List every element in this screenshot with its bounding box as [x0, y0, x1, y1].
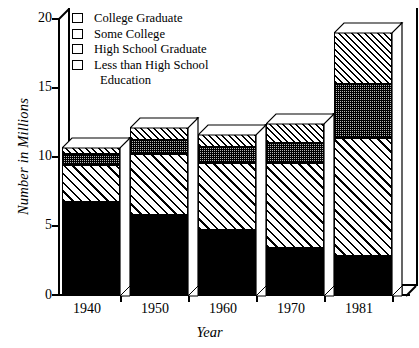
x-tick-label-1981: 1981 — [324, 301, 394, 317]
bar-1960[interactable] — [198, 134, 256, 295]
plot-frame-back-right — [416, 8, 418, 286]
bar-segment-1940-less-than-high-school-education[interactable] — [62, 202, 120, 295]
y-tick-label-0: 0 — [18, 288, 52, 302]
legend-label-continuation: Education — [100, 73, 248, 87]
chart-canvas: Number in Millions Year 20 15 10 5 0 194… — [0, 0, 419, 348]
bar-segment-1970-less-than-high-school-education[interactable] — [266, 248, 324, 295]
plot-frame-left-axis — [58, 18, 60, 296]
bar-1970[interactable] — [266, 123, 324, 295]
legend-item-high-school-graduate: High School Graduate — [72, 42, 248, 58]
plot-frame-corner-top — [58, 8, 72, 20]
bar-1981[interactable] — [334, 32, 392, 295]
y-tick-label-5: 5 — [18, 218, 52, 232]
bar-segment-1940-some-college[interactable] — [62, 154, 120, 165]
legend-swatch-some-college — [72, 29, 83, 39]
legend-swatch-less-than-high-school — [72, 60, 83, 70]
bar-segment-1940-college-graduate[interactable] — [62, 147, 120, 154]
bar-segment-1960-some-college[interactable] — [198, 147, 256, 164]
x-tick-label-1970: 1970 — [256, 301, 326, 317]
bar-side-face-1981 — [392, 22, 404, 297]
bar-segment-1970-some-college[interactable] — [266, 143, 324, 164]
legend-label-college-graduate: College Graduate — [94, 11, 182, 25]
bar-1950[interactable] — [130, 127, 188, 295]
x-tick-label-1950: 1950 — [120, 301, 190, 317]
y-tick-label-15: 15 — [18, 80, 52, 94]
bar-segment-1950-high-school-graduate[interactable] — [130, 154, 188, 215]
legend-item-less-than-high-school: Less than High School — [72, 58, 248, 74]
bar-segment-1981-less-than-high-school-education[interactable] — [334, 256, 392, 295]
bar-segment-1981-some-college[interactable] — [334, 84, 392, 138]
bar-segment-1960-high-school-graduate[interactable] — [198, 163, 256, 229]
legend-label-high-school-graduate: High School Graduate — [94, 42, 207, 56]
legend-label-some-college: Some College — [94, 27, 165, 41]
legend-item-college-graduate: College Graduate — [72, 11, 248, 27]
plot-frame-corner-bottom-right — [404, 284, 419, 298]
legend-item-some-college: Some College — [72, 27, 248, 43]
bar-segment-1950-some-college[interactable] — [130, 140, 188, 154]
bar-1940[interactable] — [62, 147, 120, 295]
y-tick-label-20: 20 — [18, 11, 52, 25]
legend-swatch-high-school-graduate — [72, 44, 83, 54]
bar-segment-1981-college-graduate[interactable] — [334, 32, 392, 85]
bar-segment-1950-college-graduate[interactable] — [130, 127, 188, 139]
bar-segment-1950-less-than-high-school-education[interactable] — [130, 215, 188, 295]
y-tick-label-10: 10 — [18, 149, 52, 163]
bar-segment-1960-college-graduate[interactable] — [198, 134, 256, 146]
bar-segment-1970-high-school-graduate[interactable] — [266, 163, 324, 247]
bar-segment-1960-less-than-high-school-education[interactable] — [198, 230, 256, 295]
legend-swatch-college-graduate — [72, 13, 83, 23]
x-tick-label-1940: 1940 — [52, 301, 122, 317]
bar-segment-1940-high-school-graduate[interactable] — [62, 165, 120, 202]
x-tick-label-1960: 1960 — [188, 301, 258, 317]
x-axis-title: Year — [0, 324, 419, 341]
legend-label-less-than-high-school: Less than High School — [94, 58, 208, 72]
legend: College Graduate Some College High Schoo… — [72, 11, 248, 87]
bar-segment-1981-high-school-graduate[interactable] — [334, 138, 392, 256]
bar-segment-1970-college-graduate[interactable] — [266, 123, 324, 142]
